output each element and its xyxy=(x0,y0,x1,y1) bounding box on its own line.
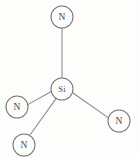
bond-si-n-bottom-left xyxy=(30,98,57,135)
atom-node-n-top[interactable]: N xyxy=(51,6,73,28)
atom-node-n-left[interactable]: N xyxy=(6,96,28,118)
node-group: Si N N N N xyxy=(6,6,130,156)
atom-label-n-top: N xyxy=(59,12,66,22)
atom-label-n-bottom-left: N xyxy=(21,140,28,150)
atom-node-si-center[interactable]: Si xyxy=(51,78,73,100)
bond-si-n-left xyxy=(28,92,52,105)
molecular-diagram: Si N N N N xyxy=(0,0,138,158)
atom-label-si: Si xyxy=(58,84,66,94)
atom-label-n-left: N xyxy=(14,102,21,112)
bond-si-n-right xyxy=(72,93,108,118)
atom-label-n-right: N xyxy=(116,116,123,126)
structure-canvas: Si N N N N xyxy=(0,0,138,158)
atom-node-n-right[interactable]: N xyxy=(108,110,130,132)
atom-node-n-bottom-left[interactable]: N xyxy=(13,134,35,156)
